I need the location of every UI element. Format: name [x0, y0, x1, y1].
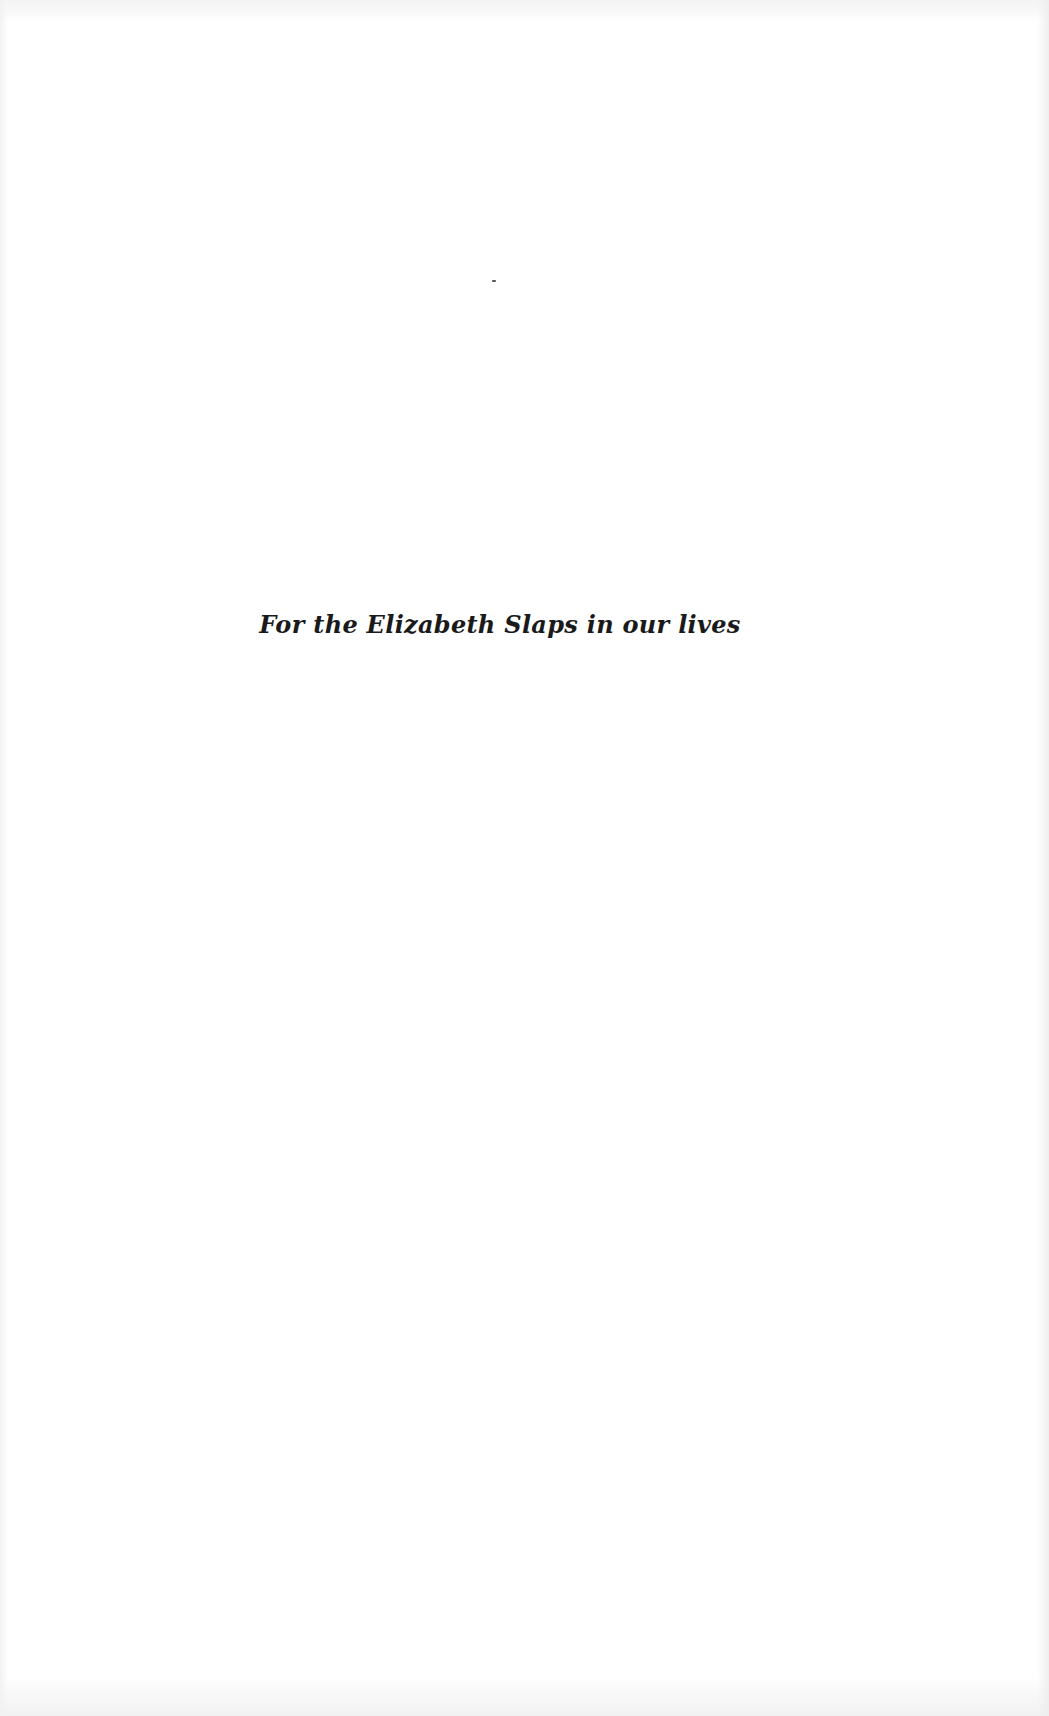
book-page: For the Elizabeth Slaps in our lives: [0, 0, 1049, 1716]
scan-edge-right: [1037, 0, 1049, 1716]
scan-edge-top: [0, 0, 1049, 22]
dedication-text: For the Elizabeth Slaps in our lives: [0, 610, 1000, 639]
scan-speck: [492, 280, 496, 282]
scan-edge-left: [0, 0, 8, 1716]
scan-edge-bottom: [0, 1676, 1049, 1716]
